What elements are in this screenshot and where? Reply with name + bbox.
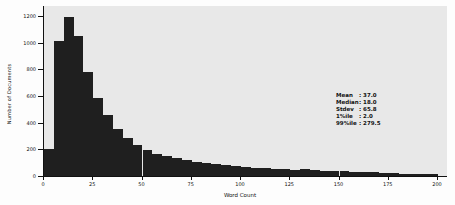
y-tick-mark <box>38 69 43 70</box>
histogram-bar <box>64 17 74 176</box>
histogram-bar <box>182 160 192 176</box>
histogram-bar <box>152 154 162 176</box>
x-tick-mark <box>142 177 143 180</box>
x-axis-label: Word Count <box>43 192 437 198</box>
histogram-bar <box>113 129 123 176</box>
x-tick-label: 0 <box>33 182 53 187</box>
histogram-bar <box>202 163 212 176</box>
x-tick-mark <box>339 177 340 180</box>
histogram-bar <box>408 174 418 176</box>
stat-label: Mean <box>336 92 359 99</box>
histogram-bar <box>143 150 153 176</box>
y-tick-mark <box>38 43 43 44</box>
histogram-bar <box>399 174 409 176</box>
histogram-bar <box>379 173 389 176</box>
histogram-bar <box>389 173 399 176</box>
y-tick-mark <box>38 96 43 97</box>
histogram-bar <box>320 171 330 176</box>
histogram-bar <box>123 138 133 176</box>
histogram-bar <box>310 170 320 176</box>
histogram-bar <box>359 172 369 176</box>
histogram-bar <box>300 169 310 176</box>
y-tick-mark <box>38 16 43 17</box>
stat-label: 99%ile <box>336 120 359 127</box>
stat-value: : 37.0 <box>359 92 377 99</box>
x-tick-mark <box>388 177 389 180</box>
stat-line: 99%ile: 279.5 <box>336 120 381 127</box>
histogram-bar <box>340 171 350 176</box>
stat-value: : 65.8 <box>359 106 377 113</box>
stat-line: Mean: 37.0 <box>336 92 381 99</box>
stat-value: : 279.5 <box>359 120 381 127</box>
histogram-bar <box>133 145 143 176</box>
histogram-bar <box>172 158 182 176</box>
stat-value: : 2.0 <box>359 113 373 120</box>
y-tick-label: 200 <box>0 147 36 152</box>
y-tick-label: 1000 <box>0 41 36 46</box>
histogram-bar <box>330 171 340 176</box>
x-tick-label: 25 <box>82 182 102 187</box>
histogram-bar <box>261 168 271 176</box>
x-tick-label: 100 <box>230 182 250 187</box>
histogram-bar <box>83 72 93 176</box>
stat-label: Median <box>336 99 359 106</box>
histogram-bar <box>74 36 84 176</box>
histogram-bar <box>192 162 202 176</box>
plot-area <box>43 6 447 177</box>
histogram-bar <box>241 167 251 176</box>
x-tick-mark <box>289 177 290 180</box>
y-tick-label: 0 <box>0 174 36 179</box>
stat-value: : 18.0 <box>359 99 377 106</box>
y-tick-mark <box>38 123 43 124</box>
histogram-bar <box>231 166 241 176</box>
histogram-bar <box>418 174 428 176</box>
histogram-bar <box>349 172 359 176</box>
y-tick-label: 600 <box>0 94 36 99</box>
x-tick-mark <box>92 177 93 180</box>
x-tick-label: 200 <box>427 182 447 187</box>
histogram-bar <box>44 149 54 176</box>
x-tick-mark <box>43 177 44 180</box>
histogram-bar <box>251 168 261 176</box>
stats-annotation: Mean: 37.0Median: 18.0Stdev: 65.81%ile: … <box>336 92 381 127</box>
histogram-bar <box>221 165 231 176</box>
stat-line: Median: 18.0 <box>336 99 381 106</box>
y-tick-mark <box>38 149 43 150</box>
x-tick-mark <box>191 177 192 180</box>
stat-label: Stdev <box>336 106 359 113</box>
histogram-bar <box>428 174 438 176</box>
histogram-bar <box>54 41 64 176</box>
x-tick-label: 125 <box>279 182 299 187</box>
histogram-bar <box>271 169 281 176</box>
histogram-bar <box>162 156 172 176</box>
x-tick-label: 75 <box>181 182 201 187</box>
y-tick-mark <box>38 176 43 177</box>
x-tick-label: 150 <box>329 182 349 187</box>
x-tick-mark <box>437 177 438 180</box>
y-tick-label: 1200 <box>0 14 36 19</box>
x-tick-label: 50 <box>132 182 152 187</box>
histogram-bar <box>103 115 113 176</box>
stat-line: 1%ile: 2.0 <box>336 113 381 120</box>
histogram-bar <box>280 169 290 176</box>
stat-line: Stdev: 65.8 <box>336 106 381 113</box>
stat-label: 1%ile <box>336 113 359 120</box>
histogram-bar <box>93 98 103 176</box>
histogram-bar <box>211 164 221 176</box>
x-tick-mark <box>240 177 241 180</box>
histogram-bar <box>290 170 300 176</box>
histogram-bar <box>369 172 379 176</box>
x-tick-label: 175 <box>378 182 398 187</box>
histogram-figure: Number of Documents 02550751001251501752… <box>0 0 455 205</box>
y-tick-label: 800 <box>0 67 36 72</box>
y-tick-label: 400 <box>0 121 36 126</box>
